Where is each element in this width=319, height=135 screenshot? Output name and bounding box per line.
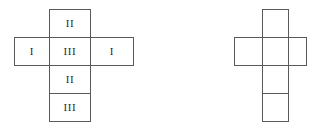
right-net-cell-middle-right — [289, 38, 307, 66]
left-net-label-middle-right: I — [110, 45, 114, 57]
right-net-cell-top — [263, 10, 289, 38]
left-net-label-bottom: III — [64, 101, 77, 113]
left-net-label-middle-left: I — [30, 45, 34, 57]
left-net-label-lower: II — [66, 73, 75, 85]
right-net-cell-lower — [263, 66, 289, 94]
right-net-cell-bottom — [263, 94, 289, 122]
right-net-cell-middle-center — [263, 38, 289, 66]
left-net-label-middle-center: III — [64, 45, 77, 57]
left-net-label-top: II — [66, 17, 75, 29]
right-net-cell-middle-left — [235, 38, 263, 66]
cube-net-diagram-figure: II I III I II III — [0, 0, 319, 135]
